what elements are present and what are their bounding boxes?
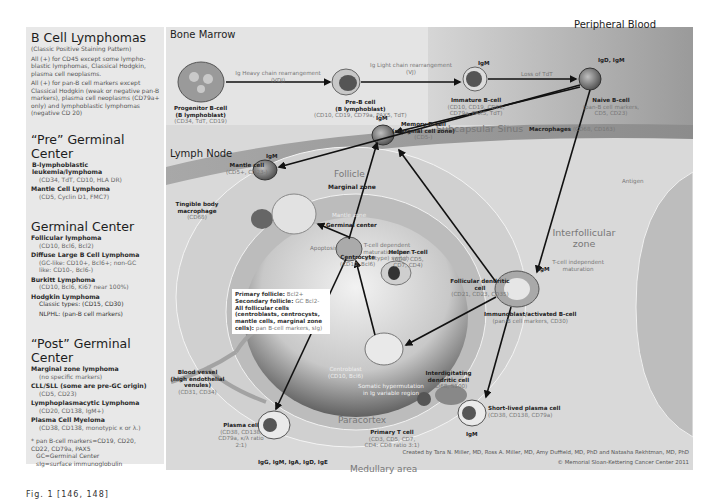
arrow-label-t-independent: T-cell independent maturation	[548, 259, 608, 272]
ig-label: IgM	[376, 115, 388, 122]
region-marginal-zone: Marginal zone	[328, 184, 376, 191]
lymphoma-legend-panel: B Cell Lymphomas (Classic Positive Stain…	[26, 27, 164, 464]
cell-centroblast: Centroblast (CD10, Bcl6)	[328, 366, 363, 379]
b-cell-development-diagram: Bone Marrow Peripheral Blood Lymph Node …	[166, 27, 693, 470]
lymphoma-markers: (CD5, Cyclin D1, FMC7)	[31, 193, 160, 201]
lymphoma-name: Mantle Cell Lymphoma	[31, 185, 160, 193]
figure-caption: Fig. 1 [146, 148]	[26, 490, 109, 499]
plasma-ig-label: IgG, IgM, IgA, IgD, IgE	[258, 459, 328, 466]
lymphoma-name: CLL/SLL (some are pre-GC origin)	[31, 382, 160, 390]
arrow-label-heavy-chain: Ig Heavy chain rearrangement (VDJ)	[228, 70, 328, 83]
ig-label: IgM	[466, 431, 478, 438]
footnote-sig: sIg=surface immunoglobulin	[31, 460, 160, 468]
footnote-panb: * pan B-cell markers=CD19, CD20, CD22, C…	[31, 437, 136, 452]
lymphoma-markers: (CD5, CD23)	[31, 390, 160, 398]
legend-note-cd45: All (+) for CD45 except some lympho-blas…	[31, 55, 160, 78]
cell-naive-b: Naive B-cell (pan-B cell markers, CD5, C…	[576, 97, 646, 117]
lymphoma-name: Marginal zone lymphoma	[31, 365, 160, 373]
lymphoma-name: Lymphoplasmacytic Lymphoma	[31, 399, 160, 407]
arrow-label-light-chain: Ig Light chain rearrangement (VJ)	[366, 62, 456, 75]
macrophages-label: Macrophages (CD68, CD163)	[529, 126, 615, 133]
region-follicle: Follicle	[334, 169, 365, 179]
lymphoma-name: B-lymphoblastic leukemia/lymphoma	[31, 161, 160, 176]
lymphoma-name: Hodgkin Lymphoma	[31, 293, 160, 301]
region-peripheral-blood: Peripheral Blood	[574, 19, 656, 30]
cell-mantle: Mantle cell (CD5+, CD23-)	[226, 162, 268, 175]
cell-follicular-dendritic: Follicular dendritic cell (CD21, CD23, C…	[450, 278, 510, 298]
legend-note-panb: All (+) for pan-B cell markers except Cl…	[31, 79, 160, 117]
section-post-gc-heading: “Post” Germinal Center	[31, 337, 160, 365]
lymphoma-markers: (CD10, Bcl6, Bcl2)	[31, 242, 160, 250]
lymphoma-markers: (CD10, Bcl6, Ki67 near 100%)	[31, 283, 160, 291]
ig-label: IgM	[538, 266, 550, 273]
cell-short-lived-plasma: Short-lived plasma cell (CD38, CD138, CD…	[488, 405, 560, 418]
lymphoma-markers: (no specific markers)	[31, 373, 160, 381]
region-medullary-area: Medullary area	[350, 464, 417, 474]
region-paracortex: Paracortex	[338, 415, 386, 425]
region-bone-marrow: Bone Marrow	[170, 29, 236, 40]
legend-subtitle: (Classic Positive Staining Pattern)	[31, 45, 160, 53]
region-lymph-node: Lymph Node	[170, 148, 232, 159]
arrow-label-antigen: Antigen	[622, 178, 644, 185]
cell-immature-b: Immature B-cell (CD10, CD19, CD20, CD79a…	[446, 97, 506, 117]
cell-progenitor-b: Progenitor B-cell (B lymphoblast) (CD34,…	[174, 105, 227, 125]
cell-memory-b: Memory B-cell (marginal cell zone) (CD5-…	[392, 121, 455, 141]
region-interfollicular-zone: Interfollicular zone	[544, 227, 624, 249]
cell-centrocyte: Centrocyte (CD10, Bcl6)	[340, 254, 375, 267]
legend-title: B Cell Lymphomas	[31, 31, 160, 45]
credits-authors: Created by Tara N. Miller, MD, Ross A. M…	[403, 449, 689, 455]
region-germinal-center: Germinal center	[326, 222, 377, 229]
follicle-info-box: Primary follicle: Bcl2+ Secondary follic…	[232, 289, 330, 334]
somatic-hypermutation-label: Somatic hypermutation in Ig variable reg…	[356, 383, 426, 396]
ig-label: IgM	[478, 60, 490, 67]
cell-immunoblast: Immunoblast/activated B-cell (pan-B cell…	[484, 311, 576, 324]
lymphoma-markers: Classic types: (CD15, CD30)	[31, 300, 160, 308]
ig-label: IgM	[266, 153, 278, 160]
footnote-gc: GC=Germinal Center	[31, 452, 160, 460]
lymphoma-markers: (CD20, CD138, IgM+)	[31, 407, 160, 415]
lymphoma-name: Follicular lymphoma	[31, 234, 160, 242]
blood-vessel-label: Blood vessel (high endothelial venules) …	[170, 369, 225, 395]
cell-pre-b: Pre-B cell (B lymphoblast) (CD10, CD19, …	[314, 99, 407, 119]
section-pre-gc-heading: “Pre” Germinal Center	[31, 133, 160, 161]
cell-tingible-macrophage: Tingible body macrophage (CD68)	[172, 201, 222, 221]
cell-interdigitating-dendritic: Interdigitating dendritic cell (CD68, S1…	[421, 370, 476, 390]
lymphoma-name: Plasma Cell Myeloma	[31, 416, 160, 424]
cell-helper-t: Helper T-cell (CD3, CD5, CD7, CD4)	[388, 249, 428, 269]
credits-copyright: © Memorial Sloan-Kettering Cancer Center…	[558, 459, 689, 465]
lymphoma-name: Burkitt Lymphoma	[31, 276, 160, 284]
ig-label: IgD, IgM	[598, 57, 624, 64]
lymphoma-name: Diffuse Large B Cell Lymphoma	[31, 251, 160, 259]
cell-plasma: Plasma cell (CD38, CD138, CD79a, κ/λ rat…	[216, 422, 266, 448]
lymphoma-markers: (CD34, TdT, CD10, HLA DR)	[31, 176, 160, 184]
lymphoma-markers: (GC-like: CD10+, Bcl6+; non-GC like: CD1…	[31, 259, 149, 274]
arrow-label-loss-tdt: Loss of TdT	[521, 71, 553, 78]
lymphoma-markers: (CD38, CD138, monotypic κ or λ.)	[31, 424, 160, 432]
region-mantle-zone: Mantle zone	[332, 212, 366, 219]
lymphoma-markers: NLPHL: (pan-B cell markers)	[31, 310, 160, 318]
cell-primary-t: Primary T cell (CD3, CD5, CD7, CD4: CD8 …	[362, 429, 422, 449]
apoptosis-label: Apoptosis	[310, 245, 337, 252]
section-gc-heading: Germinal Center	[31, 220, 160, 234]
